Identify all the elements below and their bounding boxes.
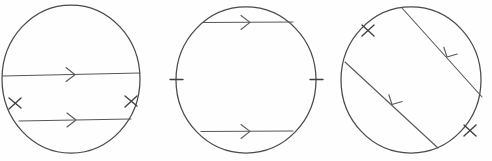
circle-3-tick-upper-left-icon <box>362 25 374 36</box>
circle-2-chord-lower <box>201 131 293 132</box>
circle-3-chord-upper <box>402 8 482 97</box>
circle-3-tick-lower-right-icon <box>464 125 476 136</box>
circle-3-outline <box>341 7 481 153</box>
circle-1-tick-left-icon <box>9 98 21 109</box>
circle-1-group <box>2 5 140 153</box>
circle-1-tick-right-icon <box>125 96 137 107</box>
circle-2-chord-upper <box>203 22 293 23</box>
circle-2-group <box>170 7 323 153</box>
geometry-figure <box>0 0 492 161</box>
circle-3-group <box>341 7 482 153</box>
circle-1-outline <box>2 5 140 153</box>
circle-3-chord-lower <box>345 62 438 148</box>
figure-canvas <box>0 0 492 161</box>
circle-1-chord-upper <box>3 73 141 76</box>
